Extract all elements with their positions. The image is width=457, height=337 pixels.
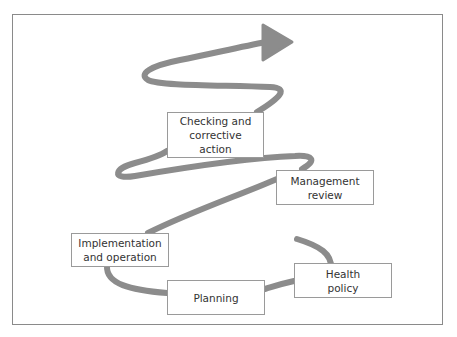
stage-implementation-operation: Implementation and operation bbox=[71, 233, 169, 267]
stage-planning: Planning bbox=[167, 280, 265, 315]
arrowhead-icon bbox=[263, 25, 292, 60]
stage-health-policy: Health policy bbox=[294, 263, 392, 298]
stage-checking-corrective-action: Checking and corrective action bbox=[167, 112, 264, 158]
stage-management-review: Management review bbox=[276, 170, 374, 205]
